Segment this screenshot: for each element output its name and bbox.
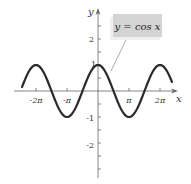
- x-tick-label-neg-2pi: -2π: [29, 96, 43, 105]
- y-tick-label-neg-2: -2: [86, 141, 94, 150]
- function-label: y = cos x: [114, 21, 161, 32]
- label-leader-line: [111, 40, 126, 71]
- x-tick-label-neg-pi: -π: [63, 96, 72, 105]
- y-ticks: [98, 26, 101, 169]
- x-axis-label: x: [176, 93, 182, 104]
- x-tick-label-2pi: 2π: [154, 96, 166, 105]
- y-tick-label-2: 2: [89, 35, 94, 44]
- y-axis-label: y: [87, 6, 94, 17]
- y-tick-label-neg-1: -1: [86, 114, 94, 123]
- cosine-graph: -2π -π π 2π 2 1 -1 -2 x y y = cos x: [0, 0, 191, 184]
- x-tick-label-pi: π: [125, 96, 132, 105]
